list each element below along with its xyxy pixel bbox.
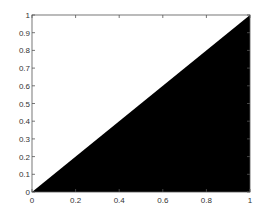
y-tick-label: 0.9 (19, 29, 31, 38)
x-tick-label: 0 (30, 196, 35, 205)
y-tick-label: 0.4 (19, 117, 31, 126)
y-tick-label: 0.1 (19, 170, 31, 179)
chart: 00.20.40.60.81 00.10.20.30.40.50.60.70.8… (0, 0, 263, 209)
y-tick-label: 0.5 (19, 100, 31, 109)
x-tick-label: 1 (248, 196, 253, 205)
x-tick-label: 0.4 (114, 196, 126, 205)
x-tick-label: 0.8 (201, 196, 213, 205)
x-tick-label: 0.6 (157, 196, 169, 205)
y-tick-label: 0.2 (19, 153, 31, 162)
y-tick-label: 1 (26, 11, 31, 20)
x-tick-label: 0.2 (70, 196, 82, 205)
y-tick-label: 0.3 (19, 135, 31, 144)
y-tick-label: 0 (26, 188, 31, 197)
y-tick-label: 0.6 (19, 82, 31, 91)
y-tick-label: 0.8 (19, 46, 31, 55)
y-tick-label: 0.7 (19, 64, 31, 73)
